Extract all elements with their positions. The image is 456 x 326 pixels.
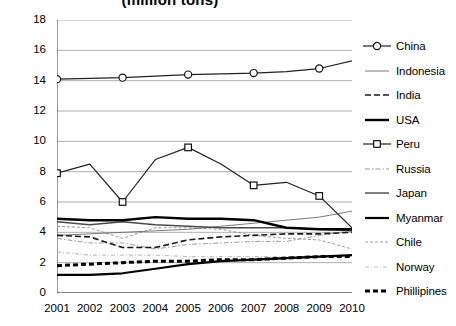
data-point-china [250,69,257,76]
legend-item-usa[interactable]: USA [362,108,456,133]
legend-swatch-line-dashdot-gray [362,162,392,176]
plot-area [57,20,352,293]
series-line-china [57,61,352,79]
data-point-peru [185,144,192,151]
legend-swatch-line-thin [362,64,392,78]
data-point-peru [316,193,323,200]
legend-label: Norway [392,261,434,273]
x-tick-label: 2002 [73,302,107,314]
legend-label: Phillipines [392,285,447,297]
legend-swatch-line-thick [362,113,392,127]
data-point-peru [250,182,257,189]
data-point-china [57,76,61,83]
legend-item-japan[interactable]: Japan [362,181,456,206]
legend-item-peru[interactable]: Peru [362,132,456,157]
legend-item-russia[interactable]: Russia [362,157,456,182]
y-tick-label: 16 [33,44,46,56]
y-tick-label: 4 [40,226,46,238]
data-point-peru [119,199,126,206]
y-tick-label: 0 [40,287,46,299]
legend-label: India [392,89,420,101]
x-tick-label: 2005 [171,302,205,314]
legend-label: China [392,40,426,52]
legend-item-china[interactable]: China [362,34,456,59]
x-tick-label: 2007 [237,302,271,314]
x-tick-label: 2010 [335,302,369,314]
chart-legend: ChinaIndonesiaIndiaUSAPeruRussiaJapanMya… [362,34,456,304]
legend-item-indonesia[interactable]: Indonesia [362,59,456,84]
y-tick-label: 12 [33,105,46,117]
legend-label: Myanmar [392,212,443,224]
y-tick-label: 18 [33,14,46,26]
series-line-peru [57,147,352,227]
y-tick-label: 14 [33,75,46,87]
legend-label: Russia [392,163,431,175]
legend-item-chile[interactable]: Chile [362,230,456,255]
legend-item-phillipines[interactable]: Phillipines [362,279,456,304]
chart-screenshot: (million tons) 181614121086420 200120022… [0,0,456,326]
legend-label: Japan [392,187,427,199]
x-tick-label: 2003 [106,302,140,314]
legend-label: Indonesia [392,65,445,77]
x-tick-label: 2006 [204,302,238,314]
series-line-india [57,232,352,247]
legend-item-norway[interactable]: Norway [362,255,456,280]
legend-item-india[interactable]: India [362,83,456,108]
x-tick-label: 2004 [138,302,172,314]
legend-item-myanmar[interactable]: Myanmar [362,206,456,231]
data-point-china [119,74,126,81]
legend-swatch-line-light-dashdot [362,260,392,274]
legend-swatch-line-thick-dashed [362,284,392,298]
legend-swatch-line-fine-dashed [362,235,392,249]
series-line-phillipines [57,257,352,266]
x-tick-label: 2009 [302,302,336,314]
data-point-china [185,71,192,78]
x-tick-label: 2008 [269,302,303,314]
legend-swatch-line-thick [362,211,392,225]
x-axis: 2001200220032004200520062007200820092010 [0,302,360,322]
legend-swatch-line-dashed [362,88,392,102]
data-point-peru [57,170,60,177]
chart-canvas [57,20,352,293]
y-axis: 181614121086420 [0,0,52,326]
data-point-china [316,65,323,72]
legend-label: USA [392,114,419,126]
legend-label: Peru [392,138,420,150]
legend-swatch-line-circle-marker [362,39,392,53]
y-tick-label: 10 [33,135,46,147]
legend-swatch-line-medium [362,186,392,200]
legend-label: Chile [392,236,422,248]
legend-swatch-line-square-marker [362,137,392,151]
y-tick-label: 2 [40,257,46,269]
y-tick-label: 8 [40,166,46,178]
x-tick-label: 2001 [40,302,74,314]
y-tick-label: 6 [40,196,46,208]
